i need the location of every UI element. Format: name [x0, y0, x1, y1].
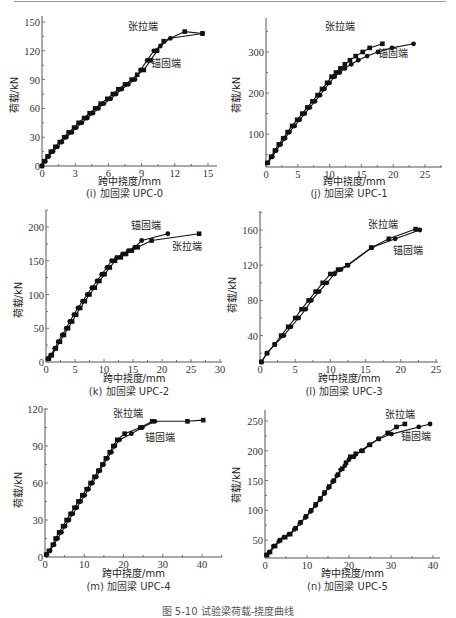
x-axis-label: 跨中挠度/mm	[98, 175, 161, 187]
series-annotation: 张拉端	[172, 240, 202, 252]
circle-marker	[151, 48, 156, 53]
circle-marker	[359, 448, 364, 453]
circle-marker	[342, 463, 347, 468]
circle-marker	[63, 524, 68, 529]
circle-marker	[349, 62, 354, 67]
circle-marker	[327, 80, 332, 85]
circle-marker	[168, 36, 173, 41]
circle-marker	[101, 462, 106, 467]
circle-marker	[108, 96, 113, 101]
square-marker	[348, 58, 353, 63]
circle-marker	[342, 66, 347, 71]
x-axis-label: 跨中挠度/mm	[102, 567, 165, 579]
circle-marker	[96, 106, 101, 111]
circle-marker	[153, 419, 158, 424]
circle-marker	[352, 454, 357, 459]
y-tick-label: 30	[33, 515, 44, 526]
x-tick-label: 5	[72, 364, 77, 375]
circle-marker	[313, 99, 318, 104]
square-marker	[299, 307, 304, 312]
series-line	[268, 44, 414, 163]
square-marker	[380, 41, 385, 46]
circle-marker	[145, 58, 150, 63]
circle-marker	[307, 105, 312, 110]
y-tick-label: 0	[39, 357, 44, 368]
y-tick-label: 60	[30, 103, 41, 114]
square-marker	[320, 281, 325, 286]
y-tick-label: 120	[24, 46, 40, 57]
circle-marker	[292, 527, 297, 532]
circle-marker	[303, 307, 308, 312]
circle-marker	[119, 87, 124, 92]
circle-marker	[278, 142, 283, 147]
series-line	[42, 34, 203, 167]
series-annotation: 张拉端	[113, 407, 143, 419]
circle-marker	[332, 272, 337, 277]
circle-marker	[82, 493, 87, 498]
circle-marker	[346, 263, 351, 268]
circle-marker	[309, 298, 314, 303]
circle-marker	[302, 111, 307, 116]
y-tick-label: 80	[248, 295, 259, 306]
circle-marker	[112, 444, 117, 449]
y-tick-label: 40	[248, 331, 259, 342]
chart-m: 0102030400306090120张拉端锚固端跨中挠度/mm荷载/kN(m)…	[13, 404, 222, 592]
subplot-caption: (i) 加固梁 UPC-0	[86, 187, 163, 199]
circle-marker	[297, 521, 302, 526]
circle-marker	[308, 509, 313, 514]
circle-marker	[330, 479, 335, 484]
series-annotation: 张拉端	[325, 20, 355, 32]
y-tick-label: 150	[24, 17, 40, 28]
square-marker	[102, 272, 107, 277]
y-tick-label: 120	[27, 404, 43, 415]
y-tick-label: 90	[30, 75, 41, 86]
y-tick-label: 250	[247, 416, 263, 427]
series-annotation: 张拉端	[385, 408, 415, 420]
square-marker	[54, 346, 59, 351]
y-tick-label: 60	[33, 478, 44, 489]
y-tick-label: 200	[248, 88, 264, 99]
y-tick-label: 300	[248, 47, 264, 58]
square-marker	[70, 319, 75, 324]
circle-marker	[55, 144, 60, 149]
y-axis-label: 荷载/kN	[227, 277, 238, 314]
y-tick-label: 0	[35, 161, 40, 172]
circle-marker	[270, 154, 275, 159]
circle-marker	[48, 548, 53, 553]
circle-marker	[282, 333, 287, 338]
circle-marker	[393, 236, 398, 241]
circle-marker	[105, 456, 110, 461]
square-marker	[97, 279, 102, 284]
x-axis-label: 跨中挠度/mm	[323, 175, 386, 187]
circle-marker	[289, 324, 294, 329]
series-line	[47, 421, 155, 554]
circle-marker	[297, 117, 302, 122]
square-marker	[135, 245, 140, 250]
square-marker	[124, 252, 129, 257]
y-tick-label: 150	[28, 256, 44, 267]
circle-marker	[133, 77, 138, 82]
x-tick-label: 3	[73, 168, 78, 179]
circle-marker	[411, 41, 416, 46]
square-marker	[403, 422, 408, 427]
y-tick-label: 50	[34, 323, 45, 334]
circle-marker	[94, 474, 99, 479]
y-tick-label: 0	[38, 552, 43, 563]
square-marker	[66, 326, 71, 331]
circle-marker	[200, 31, 205, 36]
circle-marker	[332, 74, 337, 79]
circle-marker	[365, 54, 370, 59]
circle-marker	[322, 491, 327, 496]
circle-marker	[45, 552, 50, 557]
circle-marker	[337, 70, 342, 75]
series-annotation: 锚固端	[393, 244, 423, 256]
y-tick-label: 100	[28, 290, 44, 301]
circle-marker	[140, 425, 145, 430]
x-tick-label: 5	[295, 169, 300, 180]
y-tick-label: 120	[242, 260, 258, 271]
square-marker	[185, 419, 190, 424]
circle-marker	[334, 473, 339, 478]
series-annotation: 锚固端	[401, 430, 431, 442]
square-marker	[201, 418, 206, 423]
circle-marker	[40, 164, 45, 169]
